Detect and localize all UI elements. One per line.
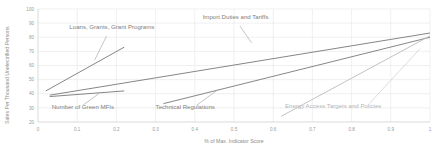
y-tick-label: 60 — [29, 63, 35, 68]
y-tick-label: 100 — [26, 7, 34, 12]
y-axis-title: Sales Per Thousand Unelectrified Persons — [4, 26, 10, 124]
x-tick-label: 0.9 — [388, 127, 395, 132]
x-tick-label: 0.1 — [74, 127, 81, 132]
x-tick-label: 0.5 — [231, 127, 238, 132]
series-annotation-label: Energy Access Targets and Policies — [285, 102, 381, 109]
series-annotation-label: Number of Green MFIs — [52, 103, 114, 110]
y-tick-label: 70 — [29, 49, 35, 54]
y-tick-label: 20 — [29, 120, 35, 125]
x-tick-label: 0.6 — [270, 127, 277, 132]
x-tick-label: 0.8 — [348, 127, 355, 132]
chart-canvas: 2030405060708090100 00.10.20.30.40.50.60… — [0, 0, 435, 147]
x-tick-label: 1 — [429, 127, 432, 132]
y-tick-label: 40 — [29, 91, 35, 96]
y-tick-label: 50 — [29, 77, 35, 82]
x-tick-label: 0 — [37, 127, 40, 132]
y-tick-label: 90 — [29, 21, 35, 26]
series-annotation-label: Loans, Grants, Grant Programs — [69, 23, 154, 30]
x-axis-title: % of Max. Indicator Score — [204, 138, 264, 144]
x-axis-title-text: % of Max. Indicator Score — [204, 138, 264, 144]
series-annotation-label: Technical Regulations — [156, 103, 215, 110]
series-annotation-label: Import Duties and Tariffs — [203, 13, 269, 20]
x-tick-label: 0.2 — [113, 127, 120, 132]
x-tick-label: 0.7 — [309, 127, 316, 132]
line-chart: 2030405060708090100 00.10.20.30.40.50.60… — [0, 0, 435, 147]
plot-background — [0, 0, 435, 147]
y-tick-label: 80 — [29, 35, 35, 40]
x-tick-label: 0.4 — [192, 127, 199, 132]
y-tick-label: 30 — [29, 106, 35, 111]
y-axis-title-text: Sales Per Thousand Unelectrified Persons — [4, 26, 10, 124]
x-tick-label: 0.3 — [152, 127, 159, 132]
